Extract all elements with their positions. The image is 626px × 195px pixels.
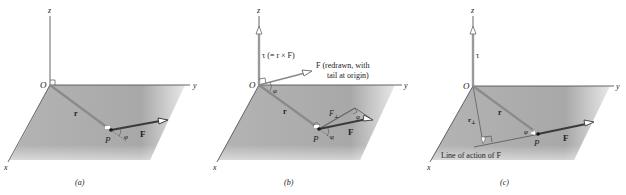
caption-b: (b) [284, 178, 294, 187]
F-label: F [563, 133, 569, 143]
line-of-action-label: Line of action of F [441, 151, 502, 160]
origin-label: O [463, 81, 470, 91]
F-redrawn-vector [259, 73, 305, 85]
tau-arrowhead [256, 26, 262, 34]
r-label: r [498, 108, 502, 117]
phi-label-origin: φ [273, 87, 277, 95]
z-axis-label: z [47, 6, 52, 15]
phi-label: φ [524, 128, 528, 136]
F-redrawn-label-line1: F (redrawn, with [316, 61, 370, 70]
panel-c: z y x O τ r⊥ r φ P F Line of action of F… [426, 6, 620, 187]
F-redrawn-label-line2: tail at origin) [327, 71, 369, 80]
F-label: F [348, 127, 354, 137]
caption-c: (c) [500, 178, 509, 187]
r-label: r [283, 107, 287, 116]
y-axis-label: y [403, 81, 408, 90]
P-label: P [104, 135, 111, 145]
panel-a: z y x O r P φ F (a) [3, 6, 197, 187]
phi-label-P: φ [330, 133, 334, 141]
torque-figure: z y x O r P φ F (a) [0, 0, 626, 195]
phi-label-F: φ [356, 113, 360, 121]
z-axis-label: z [470, 6, 475, 15]
P-label: P [312, 134, 319, 144]
tau-label: τ (= r × F) [262, 51, 295, 60]
origin-label: O [40, 80, 47, 90]
x-axis-label: x [3, 163, 8, 172]
panel-b: z y x O τ (= r × F) F (redrawn, with tai… [212, 6, 408, 187]
tau-arrowhead [470, 26, 476, 34]
tau-label: τ [476, 51, 480, 60]
y-axis-label: y [615, 82, 620, 91]
r-label: r [74, 109, 78, 118]
P-label: P [533, 138, 540, 148]
point-P [536, 132, 540, 136]
origin-label: O [249, 80, 256, 90]
caption-a: (a) [75, 178, 85, 187]
z-axis-label: z [256, 6, 261, 15]
y-axis-label: y [192, 81, 197, 90]
phi-label: φ [124, 133, 128, 141]
x-axis-label: x [212, 163, 217, 172]
x-axis-label: x [426, 163, 431, 172]
F-label: F [140, 129, 146, 139]
F-redrawn-arrowhead [302, 70, 312, 76]
